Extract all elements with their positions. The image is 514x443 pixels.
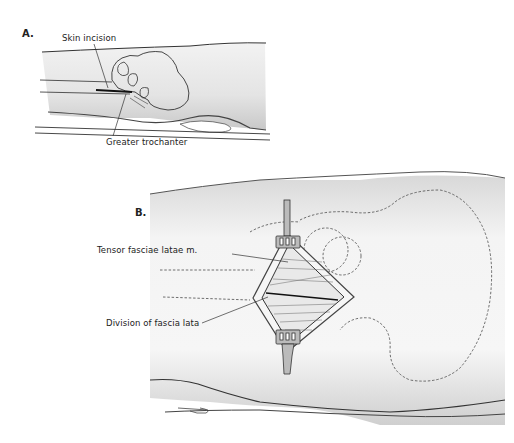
panel-a-drawing — [35, 43, 270, 140]
annotation-greater-trochanter: Greater trochanter — [106, 137, 187, 147]
panel-label-a: A. — [22, 28, 34, 39]
panel-b-drawing — [150, 172, 505, 425]
annotation-tensor-fasciae-latae: Tensor fasciae latae m. — [97, 245, 197, 255]
panel-label-b: B. — [135, 207, 146, 218]
annotation-skin-incision: Skin incision — [62, 33, 116, 43]
annotation-division-fascia-lata: Division of fascia lata — [106, 318, 199, 328]
illustration-canvas — [0, 0, 514, 443]
